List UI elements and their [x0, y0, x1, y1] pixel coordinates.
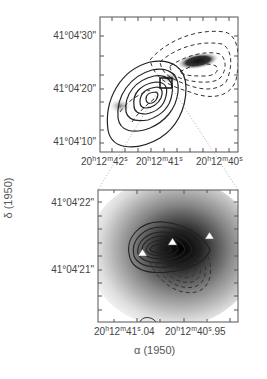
bottom-x-tick-label-40-95: 20h12m40s.95 [165, 325, 226, 337]
top-panel [100, 17, 238, 152]
bottom-y-tick-label-22: 41°04'22" [14, 197, 94, 208]
top-x-tick-label-41s: 20h12m41s [136, 155, 183, 167]
figure-canvas [0, 0, 267, 379]
top-y-tick-label-30: 41°04'30" [14, 30, 96, 41]
x-axis-title: α (1950) [134, 344, 175, 356]
top-y-tick-label-20: 41°04'20" [14, 83, 96, 94]
top-x-tick-label-40s: 20h12m40s [196, 155, 243, 167]
top-x-tick-label-42s: 20h12m42s [81, 155, 128, 167]
bottom-panel [87, 177, 257, 327]
bottom-y-tick-label-21: 41°04'21" [14, 264, 94, 275]
top-y-tick-label-10: 41°04'10" [14, 136, 96, 147]
bottom-x-tick-label-41-04: 20h12m41s.04 [94, 325, 155, 337]
y-axis-title: δ (1950) [2, 178, 14, 219]
